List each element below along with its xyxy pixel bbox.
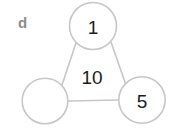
node-bottom-right-label: 5 (137, 92, 148, 111)
center-weight-label: 10 (81, 68, 102, 87)
edge-bottom-left-to-bottom-right (68, 100, 119, 101)
figure-panel-d: d 1 5 10 (0, 0, 173, 134)
node-top-label: 1 (88, 18, 99, 37)
edge-top-to-bottom-left (62, 43, 76, 85)
panel-label: d (18, 15, 27, 30)
node-bottom-left-circle[interactable] (22, 78, 68, 124)
edge-top-to-bottom-right (111, 42, 126, 85)
